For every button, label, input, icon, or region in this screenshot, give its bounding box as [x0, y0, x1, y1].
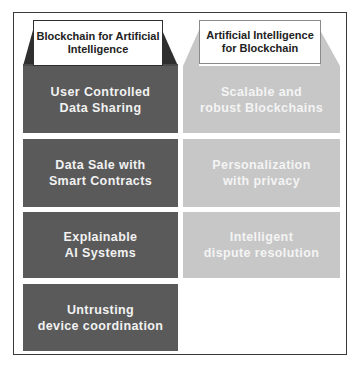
- right-item-personalization-privacy: Personalization with privacy: [183, 139, 340, 207]
- right-item-scalable-robust-blockchains: Scalable and robust Blockchains: [183, 66, 340, 133]
- left-item-data-sale-smart-contracts: Data Sale with Smart Contracts: [23, 139, 178, 207]
- left-item-user-controlled-data-sharing: User Controlled Data Sharing: [23, 66, 178, 133]
- right-column-title: Artificial Intelligence for Blockchain: [199, 20, 321, 64]
- right-item-intelligent-dispute-resolution: Intelligent dispute resolution: [183, 212, 340, 278]
- left-item-untrusting-device-coordination: Untrusting device coordination: [23, 284, 178, 351]
- left-item-explainable-ai-systems: Explainable AI Systems: [23, 212, 178, 278]
- left-column-title: Blockchain for Artificial Intelligence: [33, 20, 163, 66]
